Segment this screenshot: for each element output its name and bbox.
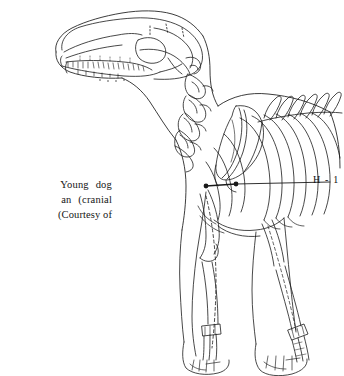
near-forelimb-group xyxy=(180,190,230,374)
figure-caption: Young dog an (cranial (Courtesy of xyxy=(0,177,112,223)
thoracic-spinous-processes-group xyxy=(258,92,342,122)
far-forelimb-group xyxy=(252,218,309,376)
figure-root: Young dog an (cranial (Courtesy of H - 1 xyxy=(0,0,344,376)
skull-group xyxy=(61,18,203,82)
caption-line-2: an (cranial xyxy=(0,192,112,207)
caption-line-3: (Courtesy of xyxy=(0,207,112,222)
leader-label: H - 1 xyxy=(313,174,340,186)
cervical-vertebrae-group xyxy=(175,74,213,172)
shoulder-joint-marker xyxy=(204,182,239,189)
caption-line-1: Young dog xyxy=(0,177,112,192)
